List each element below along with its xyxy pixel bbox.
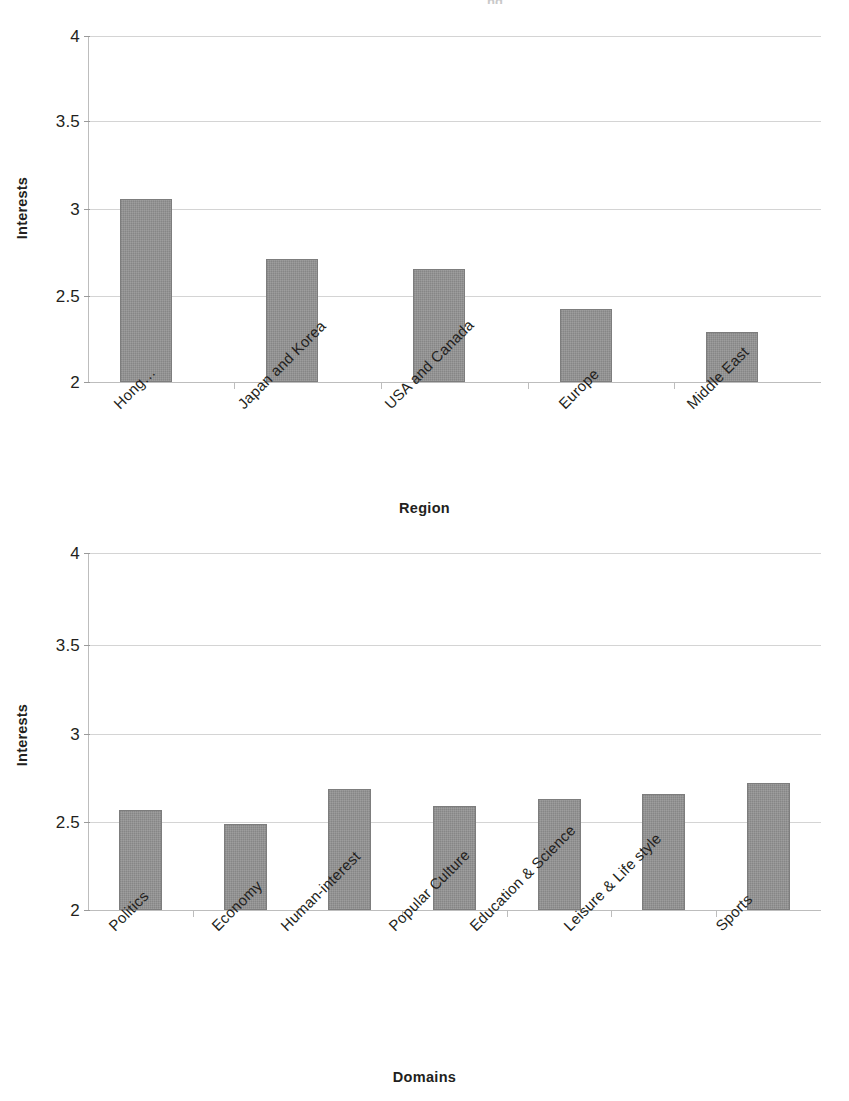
x-tick-mark (381, 382, 382, 389)
y-tick-mark (84, 36, 90, 37)
domains-bar-chart: 4 3.5 3 2.5 2 Interests (0, 530, 849, 1101)
x-tick-mark (528, 382, 529, 389)
y-tick-mark (84, 382, 90, 383)
x-tick-mark (507, 910, 508, 917)
gridline-4 (88, 553, 821, 554)
chart-page: ng 4 3.5 3 2.5 2 Interests (0, 0, 849, 1101)
x-tick-mark (611, 910, 612, 917)
y-tick-label: 2.5 (20, 288, 80, 305)
y-tick-label: 2.5 (20, 814, 80, 831)
x-tick-mark (674, 382, 675, 389)
y-tick-mark (84, 296, 90, 297)
y-tick-label: 4 (20, 545, 80, 562)
bar-domains-6 (747, 783, 790, 910)
y-tick-mark (84, 121, 90, 122)
y-tick-label: 4 (20, 28, 80, 45)
x-axis-title-region: Region (0, 500, 849, 516)
gridline-3.5 (88, 121, 821, 122)
y-tick-mark (84, 734, 90, 735)
bar-region-0 (120, 199, 172, 382)
x-tick-mark (234, 382, 235, 389)
y-tick-label: 2 (20, 374, 80, 391)
y-tick-label: 3.5 (20, 113, 80, 130)
y-tick-mark (84, 209, 90, 210)
x-axis-title-domains: Domains (0, 1069, 849, 1085)
gridline-4 (88, 36, 821, 37)
y-axis-title: Interests (14, 690, 30, 780)
y-tick-mark (84, 910, 90, 911)
axis-line-x (88, 910, 821, 911)
region-bar-chart: 4 3.5 3 2.5 2 Interests (0, 0, 849, 530)
gridline-3 (88, 209, 821, 210)
y-tick-label: 2 (20, 902, 80, 919)
gridline-3 (88, 734, 821, 735)
x-tick-mark (193, 910, 194, 917)
y-tick-mark (84, 645, 90, 646)
gridline-3.5 (88, 645, 821, 646)
y-axis-line (88, 553, 89, 911)
y-tick-label: 3.5 (20, 637, 80, 654)
y-tick-mark (84, 822, 90, 823)
y-tick-mark (84, 553, 90, 554)
y-axis-title: Interests (14, 163, 30, 253)
